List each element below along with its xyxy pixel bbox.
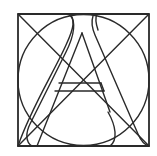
monogram-figure <box>0 0 157 156</box>
letter-a-right-stroke-outer <box>92 16 149 146</box>
letter-a-inner-right-leg <box>82 33 110 112</box>
letter-a-left-stroke-inner <box>27 14 74 146</box>
monogram-svg <box>0 0 157 156</box>
